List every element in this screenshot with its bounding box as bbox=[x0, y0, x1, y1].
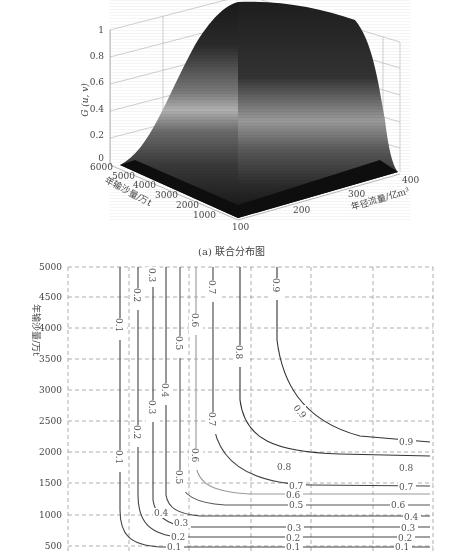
svg-text:0.3: 0.3 bbox=[147, 268, 157, 283]
contour-0.8 bbox=[240, 267, 430, 456]
svg-text:0.2: 0.2 bbox=[132, 288, 142, 302]
svg-text:0.1: 0.1 bbox=[286, 542, 300, 552]
svg-text:0.6: 0.6 bbox=[190, 448, 200, 463]
svg-text:0.9: 0.9 bbox=[271, 278, 281, 293]
svg-text:0.7: 0.7 bbox=[207, 412, 217, 427]
contour-y-label: 年输沙量/万t bbox=[31, 304, 42, 356]
svg-text:3000: 3000 bbox=[39, 385, 62, 395]
svg-text:0.9: 0.9 bbox=[399, 437, 414, 447]
svg-text:0.4: 0.4 bbox=[404, 512, 419, 522]
figure-b-contour: 5000 4500 4000 3500 3000 2500 2000 1500 … bbox=[0, 0, 463, 553]
contour-0.2 bbox=[138, 267, 430, 537]
svg-text:0.8: 0.8 bbox=[399, 463, 414, 473]
svg-text:0.1: 0.1 bbox=[114, 318, 124, 332]
svg-text:0.3: 0.3 bbox=[174, 518, 189, 528]
svg-text:0.5: 0.5 bbox=[174, 470, 184, 485]
svg-text:0.4: 0.4 bbox=[160, 383, 170, 398]
svg-text:0.1: 0.1 bbox=[114, 450, 124, 464]
svg-text:0.6: 0.6 bbox=[190, 313, 200, 328]
svg-text:0.3: 0.3 bbox=[401, 523, 416, 533]
svg-text:0.2: 0.2 bbox=[171, 532, 185, 542]
svg-text:5000: 5000 bbox=[39, 262, 62, 272]
svg-text:0.5: 0.5 bbox=[174, 336, 184, 351]
svg-text:0.7: 0.7 bbox=[207, 280, 217, 295]
contour-lines bbox=[120, 267, 430, 547]
svg-text:2500: 2500 bbox=[39, 416, 62, 426]
svg-text:0.1: 0.1 bbox=[167, 542, 181, 552]
svg-text:0.8: 0.8 bbox=[277, 462, 292, 472]
svg-text:1000: 1000 bbox=[39, 510, 62, 520]
svg-text:2000: 2000 bbox=[39, 447, 62, 457]
svg-text:0.1: 0.1 bbox=[395, 542, 409, 552]
svg-text:0.7: 0.7 bbox=[399, 482, 414, 492]
contour-labels: 0.1 0.1 0.2 0.2 0.3 0.3 0.4 0.5 0.5 0.6 … bbox=[113, 267, 421, 552]
contour-grid bbox=[68, 267, 433, 553]
svg-text:500: 500 bbox=[45, 541, 62, 551]
svg-text:0.3: 0.3 bbox=[147, 400, 157, 415]
svg-text:4500: 4500 bbox=[39, 292, 62, 302]
svg-text:1500: 1500 bbox=[39, 478, 62, 488]
svg-text:0.6: 0.6 bbox=[391, 500, 406, 510]
svg-text:0.6: 0.6 bbox=[286, 490, 301, 500]
svg-text:0.8: 0.8 bbox=[234, 345, 244, 360]
svg-text:0.3: 0.3 bbox=[287, 523, 302, 533]
contour-0.5 bbox=[180, 267, 430, 505]
svg-text:0.4: 0.4 bbox=[154, 508, 169, 518]
svg-text:4000: 4000 bbox=[39, 323, 62, 333]
svg-text:0.5: 0.5 bbox=[289, 500, 304, 510]
contour-y-ticks: 5000 4500 4000 3500 3000 2500 2000 1500 … bbox=[39, 262, 62, 551]
svg-text:0.2: 0.2 bbox=[132, 425, 142, 439]
svg-text:3500: 3500 bbox=[39, 354, 62, 364]
contour-0.4 bbox=[166, 267, 430, 516]
